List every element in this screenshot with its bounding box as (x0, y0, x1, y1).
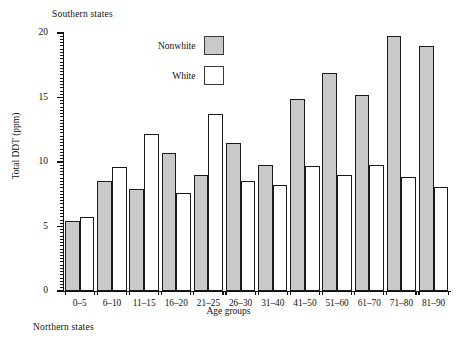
y-tick-minor (60, 232, 64, 233)
bar-nonwhite-61–70 (355, 95, 370, 291)
y-tick-5: 5 (57, 226, 64, 227)
bar-nonwhite-0–5 (65, 221, 80, 291)
y-tick-minor (60, 274, 64, 275)
bar-white-41–50 (305, 166, 320, 291)
x-tick (97, 291, 98, 295)
bar-nonwhite-71–80 (387, 36, 402, 291)
y-tick-minor (60, 184, 64, 185)
y-tick-minor (60, 55, 64, 56)
y-tick-minor (60, 84, 64, 85)
y-tick-minor (60, 207, 64, 208)
legend-swatch-white (204, 66, 224, 85)
y-tick-minor (60, 265, 64, 266)
bar-nonwhite-41–50 (290, 99, 305, 291)
x-tick (386, 291, 387, 295)
chart-figure: Southern states Total DDT (ppm) 05101520… (0, 0, 457, 340)
y-tick-minor (60, 194, 64, 195)
bar-white-0–5 (80, 217, 95, 291)
y-tick-label-10: 10 (39, 156, 49, 166)
y-tick-minor (60, 116, 64, 117)
x-tick (354, 291, 355, 295)
y-tick-minor (60, 78, 64, 79)
x-tick (415, 291, 416, 295)
y-tick-minor (60, 81, 64, 82)
bar-white-16–20 (176, 193, 191, 291)
y-tick-minor (60, 271, 64, 272)
x-tick (193, 291, 194, 295)
y-tick-minor (60, 261, 64, 262)
x-tick (322, 291, 323, 295)
y-tick-minor (60, 229, 64, 230)
x-tick (418, 291, 419, 295)
y-tick-minor (60, 249, 64, 250)
bar-nonwhite-26–30 (226, 143, 241, 291)
x-tick (383, 291, 384, 295)
y-axis-label: Total DDT (ppm) (11, 86, 21, 206)
y-tick-minor (60, 158, 64, 159)
bar-white-71–80 (401, 177, 416, 291)
y-tick-minor (60, 152, 64, 153)
x-tick (290, 291, 291, 295)
y-tick-minor (60, 132, 64, 133)
y-tick-minor (60, 258, 64, 259)
x-tick (448, 291, 449, 295)
x-tick (255, 291, 256, 295)
bar-white-31–40 (273, 185, 288, 291)
x-tick (161, 291, 162, 295)
bar-nonwhite-51–60 (322, 73, 337, 291)
y-tick-minor (60, 155, 64, 156)
bar-white-21–25 (208, 114, 223, 291)
panel-caption-top: Southern states (52, 9, 113, 19)
y-tick-0: 0 (57, 290, 64, 291)
x-tick (222, 291, 223, 295)
x-tick (126, 291, 127, 295)
y-tick-minor (60, 36, 64, 37)
legend-label-white: White (172, 71, 195, 81)
bar-white-26–30 (241, 181, 256, 291)
x-tick (129, 291, 130, 295)
y-tick-minor (60, 200, 64, 201)
y-tick-minor (60, 62, 64, 63)
y-tick-minor (60, 91, 64, 92)
y-tick-minor (60, 39, 64, 40)
y-tick-minor (60, 123, 64, 124)
bar-white-51–60 (337, 175, 352, 291)
x-tick (158, 291, 159, 295)
y-tick-minor (60, 213, 64, 214)
y-tick-minor (60, 100, 64, 101)
y-tick-10: 10 (57, 161, 64, 162)
bar-white-6–10 (112, 167, 127, 291)
y-tick-minor (60, 94, 64, 95)
y-tick-minor (60, 197, 64, 198)
y-tick-minor (60, 149, 64, 150)
y-tick-15: 15 (57, 97, 64, 98)
bar-nonwhite-31–40 (258, 165, 273, 291)
y-tick-minor (60, 120, 64, 121)
y-tick-minor (60, 45, 64, 46)
y-tick-minor (60, 255, 64, 256)
y-tick-minor (60, 145, 64, 146)
y-tick-minor (60, 281, 64, 282)
y-tick-minor (60, 126, 64, 127)
y-tick-minor (60, 129, 64, 130)
panel-caption-bottom: Northern states (33, 322, 94, 332)
y-tick-minor (60, 203, 64, 204)
y-tick-minor (60, 239, 64, 240)
bar-nonwhite-16–20 (162, 153, 177, 291)
y-tick-minor (60, 174, 64, 175)
y-tick-minor (60, 52, 64, 53)
y-tick-label-15: 15 (39, 92, 49, 102)
chart-legend: NonwhiteWhite (158, 36, 224, 96)
x-axis-label: Age groups (0, 306, 457, 316)
bar-white-81–90 (434, 187, 449, 291)
y-tick-minor (60, 245, 64, 246)
y-tick-minor (60, 220, 64, 221)
y-tick-minor (60, 71, 64, 72)
y-tick-minor (60, 278, 64, 279)
bar-nonwhite-81–90 (419, 46, 434, 291)
bar-nonwhite-6–10 (97, 181, 112, 291)
legend-item-white: White (158, 66, 224, 85)
y-tick-minor (60, 168, 64, 169)
y-tick-minor (60, 171, 64, 172)
y-tick-minor (60, 65, 64, 66)
